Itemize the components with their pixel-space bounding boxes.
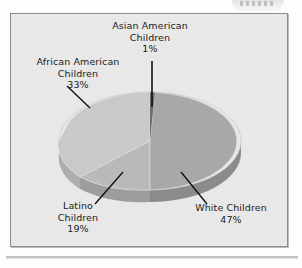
page-horizontal-rule bbox=[6, 256, 298, 258]
slice-label-african-american-line1: African American bbox=[21, 56, 135, 68]
figure-page: Asian American Children 1% African Ameri… bbox=[0, 0, 302, 268]
figure-frame: Asian American Children 1% African Ameri… bbox=[10, 13, 288, 247]
slice-label-white: White Children 47% bbox=[179, 202, 283, 225]
slice-label-asian-american-value: 1% bbox=[93, 43, 207, 55]
slice-label-asian-american-line1: Asian American bbox=[93, 20, 207, 32]
slice-label-white-value: 47% bbox=[179, 214, 283, 226]
slice-label-latino-line2: Children bbox=[41, 212, 115, 224]
slice-label-african-american-line2: Children bbox=[21, 68, 135, 80]
slice-label-latino: Latino Children 19% bbox=[41, 200, 115, 235]
slice-label-asian-american-line2: Children bbox=[93, 32, 207, 44]
slice-label-latino-line1: Latino bbox=[41, 200, 115, 212]
pie-chart: Asian American Children 1% African Ameri… bbox=[11, 14, 289, 248]
slice-label-white-line1: White Children bbox=[179, 202, 283, 214]
slice-label-asian-american: Asian American Children 1% bbox=[93, 20, 207, 55]
slice-label-latino-value: 19% bbox=[41, 223, 115, 235]
scan-smudge-artifact bbox=[232, 0, 284, 11]
slice-label-african-american: African American Children 33% bbox=[21, 56, 135, 91]
slice-label-african-american-value: 33% bbox=[21, 79, 135, 91]
